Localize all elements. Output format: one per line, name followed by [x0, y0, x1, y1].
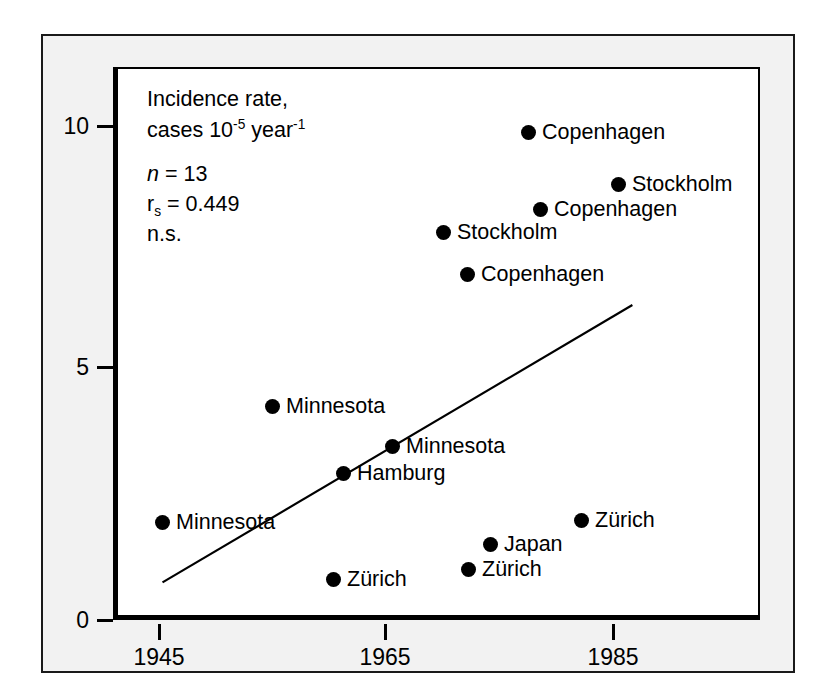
- point-label: Copenhagen: [542, 120, 665, 145]
- plot-area: Incidence rate, cases 10-5 year-1 n = 13…: [118, 69, 758, 615]
- annotation-units-mid: year: [245, 118, 293, 142]
- point-label: Minnesota: [176, 510, 275, 535]
- annotation-rs-value: = 0.449: [161, 192, 239, 216]
- annotation-title-line1: Incidence rate,: [147, 87, 288, 112]
- annotation-rs: rs = 0.449: [147, 192, 239, 219]
- plot-frame: Incidence rate, cases 10-5 year-1 n = 13…: [113, 67, 760, 620]
- y-tick-label-10: 10: [43, 113, 89, 140]
- point-marker: [436, 225, 451, 240]
- annotation-n-symbol: n: [147, 162, 159, 186]
- y-tick-mark: [97, 366, 113, 369]
- point-label: Hamburg: [357, 461, 445, 486]
- point-marker: [574, 513, 589, 528]
- annotation-n-value: = 13: [159, 162, 207, 186]
- point-label: Copenhagen: [554, 197, 677, 222]
- point-marker: [155, 515, 170, 530]
- y-tick-label-5: 5: [43, 354, 89, 381]
- y-tick-mark: [97, 125, 113, 128]
- point-marker: [483, 537, 498, 552]
- point-marker: [265, 399, 280, 414]
- annotation-units-exp1: -5: [233, 117, 245, 132]
- point-label: Zürich: [595, 508, 655, 533]
- point-marker: [461, 562, 476, 577]
- annotation-units-prefix: cases 10: [147, 118, 233, 142]
- point-marker: [611, 177, 626, 192]
- y-tick-mark: [97, 619, 113, 622]
- point-marker: [460, 267, 475, 282]
- point-label: Minnesota: [406, 434, 505, 459]
- y-tick-label-0: 0: [43, 607, 89, 634]
- point-label: Stockholm: [457, 220, 557, 245]
- x-tick-label-1985: 1985: [587, 644, 638, 671]
- annotation-title-line2: cases 10-5 year-1: [147, 117, 305, 143]
- point-label: Copenhagen: [481, 262, 604, 287]
- point-label: Zürich: [347, 567, 407, 592]
- x-tick-mark: [612, 624, 615, 640]
- x-tick-mark: [384, 624, 387, 640]
- annotation-significance: n.s.: [147, 222, 182, 247]
- point-marker: [385, 439, 400, 454]
- annotation-n: n = 13: [147, 162, 207, 187]
- point-label: Stockholm: [632, 172, 732, 197]
- point-marker: [326, 572, 341, 587]
- point-marker: [521, 125, 536, 140]
- x-tick-label-1945: 1945: [133, 644, 184, 671]
- x-tick-mark: [158, 624, 161, 640]
- figure-panel: 10 5 0 1945 1965 1985 Incidence rate, ca…: [41, 34, 795, 673]
- point-marker: [533, 202, 548, 217]
- point-label: Minnesota: [286, 394, 385, 419]
- x-tick-label-1965: 1965: [359, 644, 410, 671]
- point-label: Zürich: [482, 557, 542, 582]
- annotation-units-exp2: -1: [293, 117, 305, 132]
- point-marker: [336, 466, 351, 481]
- point-label: Japan: [504, 532, 563, 557]
